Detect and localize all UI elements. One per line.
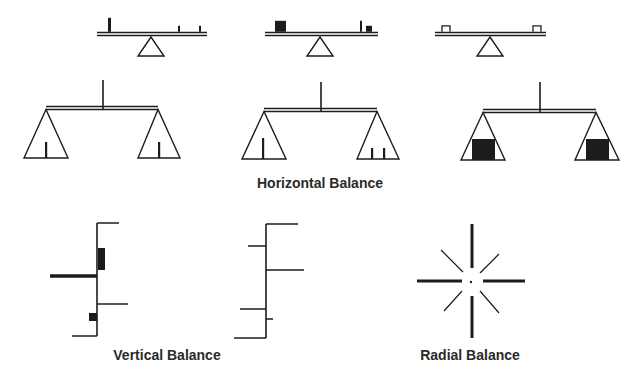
vertical-weighted [50,223,128,336]
weight-bar [360,21,362,32]
fulcrum-triangle [477,37,503,56]
scale-one-vs-two [242,82,399,159]
weight-block [366,26,372,32]
weight-bar [178,26,180,32]
pan-weight-block [586,139,609,160]
weight-block [275,21,286,32]
weight-box-outline [442,26,450,32]
caption-radial-balance: Radial Balance [420,347,520,363]
scale-group [24,80,619,160]
seesaw-symmetric-boxes [435,26,546,56]
pan-weight-bar [262,138,264,159]
pan-weight-block [472,139,495,160]
scale-two-blocks [461,82,619,160]
radial-spoke [444,291,462,311]
radial-balance-group [417,224,525,338]
center-dot [470,281,472,283]
seesaw-block-vs-post [265,21,378,56]
pan-weight-bar [383,148,385,159]
weight-bar [199,26,201,32]
radial-spoke [441,250,463,272]
weight-block [89,313,97,321]
vertical-balance-group [50,223,304,338]
seesaw-group [97,18,546,56]
pan-weight-bar [45,142,47,158]
scale-single-weights [24,80,180,158]
radial-star [417,224,525,338]
radial-spoke [480,291,499,313]
weight-bar [108,18,111,32]
scale-pan-triangle [357,112,399,160]
radial-spoke [480,254,499,273]
caption-horizontal-balance: Horizontal Balance [257,175,383,191]
fulcrum-triangle [307,37,333,56]
fulcrum-triangle [138,37,164,56]
seesaw-uneven-weights [97,18,207,56]
pan-weight-bar [158,142,160,158]
vertical-lines-only [234,224,304,338]
pan-weight-bar [371,148,373,159]
weight-block [98,248,105,270]
caption-vertical-balance: Vertical Balance [113,347,220,363]
weight-box-outline [533,26,541,32]
